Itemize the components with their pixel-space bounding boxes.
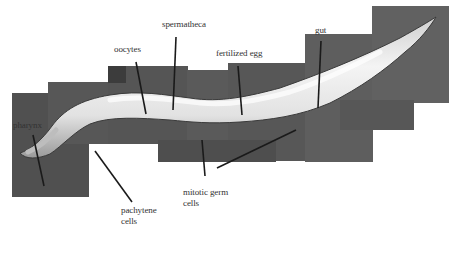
pointer-pachytene [95,151,132,202]
label-fertilized-egg: fertilized egg [216,48,262,59]
pointer-mitotic-germ-2 [217,130,296,168]
label-gut: gut [315,25,326,36]
label-pharynx: pharynx [13,120,42,131]
worm-and-pointers [0,0,458,260]
label-mitotic-germ-line2: cells [183,198,199,209]
label-oocytes: oocytes [114,44,141,55]
label-pachytene-line2: cells [121,216,137,227]
worm-anatomy-diagram: pharynx oocytes spermatheca fertilized e… [0,0,458,260]
pointer-mitotic-germ-1 [202,140,205,176]
worm-body [20,17,436,158]
label-spermatheca: spermatheca [162,19,206,30]
label-pachytene-line1: pachytene [121,205,157,216]
label-mitotic-germ-line1: mitotic germ [183,187,228,198]
